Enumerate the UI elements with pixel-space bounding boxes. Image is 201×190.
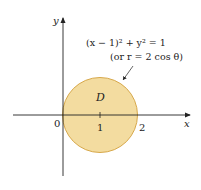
polar-equation-label: (or r = 2 cos θ) (110, 51, 183, 62)
region-diagram: y x 0 1 2 D (x − 1)² + y² = 1 (or r = 2 … (0, 0, 201, 190)
tick-label-1: 1 (97, 122, 103, 133)
equation-label: (x − 1)² + y² = 1 (86, 37, 166, 48)
annotation-arrow (123, 66, 133, 80)
x-axis-label: x (184, 118, 190, 129)
region-label: D (95, 91, 105, 104)
tick-label-2: 2 (139, 122, 145, 133)
origin-label: 0 (54, 118, 60, 129)
diagram-canvas: y x 0 1 2 D (x − 1)² + y² = 1 (or r = 2 … (0, 0, 201, 190)
y-axis-label: y (52, 15, 59, 26)
